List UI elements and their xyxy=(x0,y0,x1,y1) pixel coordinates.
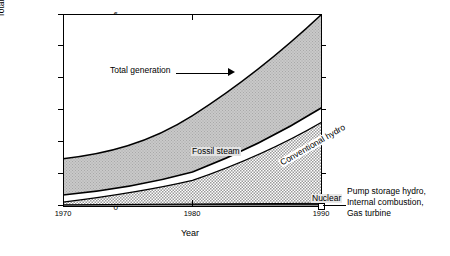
label-fossil-steam: Fossil steam xyxy=(191,147,241,156)
stacked-area-series xyxy=(63,14,322,207)
callout-line-3: Gas turbine xyxy=(347,208,426,219)
y-tick-0 xyxy=(58,205,63,206)
x-axis-title: Year xyxy=(150,228,230,238)
y-axis-title-line1: Total Annual Power Generation xyxy=(0,0,6,18)
x-tick-1980 xyxy=(192,200,193,206)
callout-leader-line xyxy=(323,205,346,206)
label-total-generation: Total generation xyxy=(110,66,171,75)
x-tick-label-1970: 1970 xyxy=(43,210,83,218)
plot-frame-right xyxy=(321,14,322,207)
y-axis-title: Total Annual Power Generation (10⁶ MW-hr… xyxy=(0,0,17,44)
label-nuclear: Nuclear xyxy=(311,194,342,203)
x-tick-label-1990: 1990 xyxy=(301,210,341,218)
total-generation-leader-line xyxy=(176,73,229,74)
chart-figure: Total Annual Power Generation (10⁶ MW-hr… xyxy=(0,0,450,256)
y-axis-line xyxy=(63,14,64,207)
y-tick-4 xyxy=(58,77,63,78)
callout-line-1: Pump storage hydro, xyxy=(347,186,426,197)
y-tick-right-3 xyxy=(321,109,326,110)
y-tick-2 xyxy=(58,141,63,142)
total-generation-arrow-icon xyxy=(228,68,235,76)
y-axis-title-line2: (10⁶ MW-hr) xyxy=(7,0,18,44)
y-tick-right-1 xyxy=(321,173,326,174)
y-tick-3 xyxy=(58,109,63,110)
x-tick-label-1980: 1980 xyxy=(172,210,212,218)
y-tick-1 xyxy=(58,173,63,174)
y-tick-5 xyxy=(58,45,63,46)
plot-area: Fossil steam Conventional hydro Nuclear xyxy=(63,14,322,207)
y-tick-6 xyxy=(58,14,63,15)
callout-pump-storage-internal-gas: Pump storage hydro, Internal combustion,… xyxy=(347,186,426,219)
callout-line-2: Internal combustion, xyxy=(347,197,426,208)
x-tick-top-1980 xyxy=(192,14,193,20)
y-tick-right-5 xyxy=(321,45,326,46)
y-tick-right-4 xyxy=(321,77,326,78)
